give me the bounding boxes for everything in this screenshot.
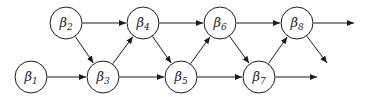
- beta-dag-canvas: β1β2β3β4β5β6β7β8: [0, 0, 366, 97]
- beta-dag-diagram: β1β2β3β4β5β6β7β8: [0, 0, 366, 97]
- exit-arrow-beta8-2: [307, 36, 327, 63]
- node-beta8: β8: [281, 7, 313, 39]
- edge-beta4-to-beta5: [153, 36, 172, 63]
- edge-beta2-to-beta3: [75, 37, 93, 63]
- node-beta1: β1: [15, 61, 47, 93]
- edge-beta6-to-beta7: [230, 36, 249, 63]
- node-beta4: β4: [127, 7, 159, 39]
- edge-beta5-to-beta6: [191, 37, 210, 64]
- node-beta7: β7: [243, 61, 275, 93]
- node-beta2: β2: [50, 7, 82, 39]
- edge-beta7-to-beta8: [269, 37, 288, 64]
- edge-beta3-to-beta4: [113, 37, 133, 64]
- node-beta5: β5: [165, 61, 197, 93]
- node-beta3: β3: [87, 61, 119, 93]
- node-beta6: β6: [204, 7, 236, 39]
